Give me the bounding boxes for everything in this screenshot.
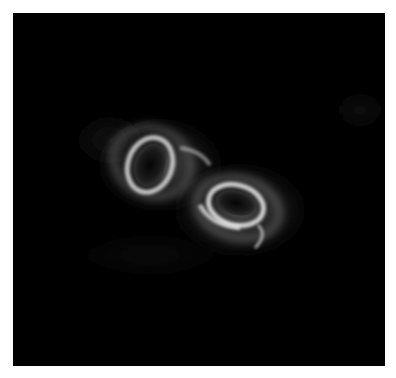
vortex-image [13, 13, 385, 366]
faint-wisp [320, 90, 385, 130]
vortex-visualization [13, 13, 385, 366]
